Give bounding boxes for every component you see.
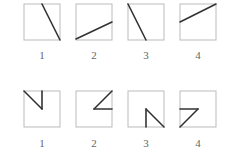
row-1-label-1: 1 <box>32 49 52 61</box>
row-1-label-2: 2 <box>84 49 104 61</box>
square-with-line-icon <box>127 90 165 128</box>
square-with-line-icon <box>127 3 165 41</box>
row-1-label-4: 4 <box>188 49 208 61</box>
square-with-line-icon <box>179 90 217 128</box>
row-1-figure-1 <box>23 3 61 41</box>
row-2-figure-4 <box>179 90 217 128</box>
square-with-line-icon <box>75 90 113 128</box>
square-with-line-icon <box>179 3 217 41</box>
square-with-line-icon <box>23 3 61 41</box>
row-2-figure-3 <box>127 90 165 128</box>
row-2-label-4: 4 <box>188 137 208 149</box>
row-2-figure-2 <box>75 90 113 128</box>
row-1-label-3: 3 <box>136 49 156 61</box>
row-2-label-2: 2 <box>84 137 104 149</box>
row-1-figure-4 <box>179 3 217 41</box>
row-2-label-1: 1 <box>32 137 52 149</box>
row-1-figure-3 <box>127 3 165 41</box>
row-2-label-3: 3 <box>136 137 156 149</box>
square-with-line-icon <box>23 90 61 128</box>
square-with-line-icon <box>75 3 113 41</box>
row-1-figure-2 <box>75 3 113 41</box>
row-2-figure-1 <box>23 90 61 128</box>
